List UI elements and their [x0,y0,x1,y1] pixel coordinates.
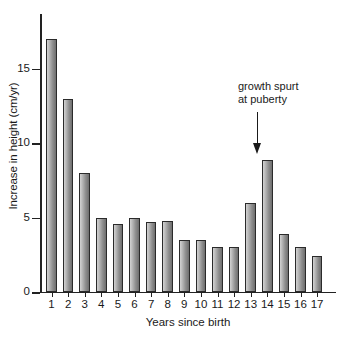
bar-year-11 [212,247,223,292]
annotation-line-1: growth spurt [238,80,342,93]
x-tick-label-4: 4 [98,299,104,311]
x-tick-label-8: 8 [164,299,170,311]
x-tick-label-16: 16 [294,299,307,311]
x-tick-5 [118,292,119,297]
x-tick-17 [317,292,318,297]
bar-year-8 [162,221,173,292]
y-tick-5 [32,218,40,220]
bar-year-12 [229,247,240,292]
x-tick-11 [218,292,219,297]
bar-chart-figure: Increase in height (cm/yr) 051015 123456… [0,0,344,344]
bar-year-4 [96,218,107,292]
x-tick-12 [234,292,235,297]
y-tick-label-15: 15 [0,63,30,75]
x-tick-label-1: 1 [48,299,54,311]
x-tick-1 [52,292,53,297]
bar-year-9 [179,240,190,292]
x-tick-label-12: 12 [228,299,241,311]
bar-year-7 [146,222,157,292]
y-tick-15 [32,69,40,71]
x-tick-9 [184,292,185,297]
x-tick-2 [68,292,69,297]
x-tick-3 [85,292,86,297]
bar-year-5 [113,224,124,292]
y-tick-label-5: 5 [0,212,30,224]
arrow-shaft [257,112,258,145]
bar-year-14 [262,160,273,292]
x-tick-label-3: 3 [81,299,87,311]
annotation-line-2: at puberty [238,93,342,106]
arrow-head [253,143,261,154]
bar-year-13 [245,203,256,292]
x-tick-label-9: 9 [181,299,187,311]
y-tick-label-10: 10 [0,137,30,149]
x-tick-15 [284,292,285,297]
x-tick-4 [101,292,102,297]
x-tick-7 [151,292,152,297]
x-tick-8 [168,292,169,297]
bar-year-16 [295,247,306,292]
x-tick-label-13: 13 [244,299,257,311]
x-tick-label-14: 14 [261,299,274,311]
x-tick-label-15: 15 [277,299,290,311]
x-tick-13 [251,292,252,297]
bar-year-10 [196,240,207,292]
x-tick-16 [301,292,302,297]
x-tick-label-6: 6 [131,299,137,311]
x-tick-label-7: 7 [148,299,154,311]
bar-year-1 [46,39,57,292]
x-tick-label-11: 11 [212,299,224,311]
plot-area [40,14,336,292]
x-tick-6 [135,292,136,297]
y-tick-label-0: 0 [0,286,30,298]
down-arrow-icon [252,112,264,154]
y-tick-0 [32,292,40,294]
x-tick-10 [201,292,202,297]
x-tick-label-10: 10 [194,299,207,311]
x-tick-label-17: 17 [311,299,324,311]
annotation-label: growth spurt at puberty [238,80,342,107]
bar-year-2 [63,99,74,292]
x-tick-label-5: 5 [115,299,121,311]
bar-year-3 [79,173,90,292]
x-tick-14 [267,292,268,297]
bar-year-6 [129,218,140,292]
y-tick-10 [32,143,40,145]
x-axis-title: Years since birth [40,316,336,328]
x-tick-label-2: 2 [65,299,71,311]
bar-year-15 [279,234,290,292]
bar-year-17 [312,256,323,292]
